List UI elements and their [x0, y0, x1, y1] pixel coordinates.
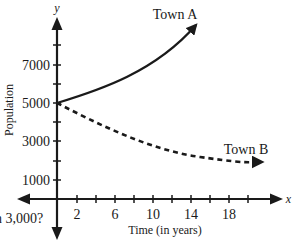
y-tick-label: 5000: [22, 96, 50, 111]
town-a-label: Town A: [153, 7, 198, 22]
y-axis-arrow-down-icon: [52, 227, 63, 240]
x-tick-label: 2: [74, 207, 81, 222]
y-tick-label: 3000: [22, 134, 50, 149]
cutoff-question-text: n 3,000?: [0, 211, 43, 226]
town-b-label: Town B: [224, 142, 269, 157]
y-axis: 1000 3000 5000 7000 y Population: [2, 1, 63, 240]
x-axis-arrow-right-icon: [270, 194, 283, 205]
x-tick-label: 10: [146, 207, 160, 222]
y-axis-arrow-up-icon: [52, 17, 63, 30]
x-axis-label: Time (in years): [128, 223, 202, 237]
town-a-curve: [57, 25, 196, 103]
x-tick-label: 18: [222, 207, 236, 222]
y-tick-label: 7000: [22, 58, 50, 73]
x-axis-variable: x: [285, 192, 292, 206]
y-tick-label: 1000: [22, 173, 50, 188]
x-axis-arrow-left-icon: [17, 194, 30, 205]
y-axis-variable: y: [53, 1, 60, 15]
x-tick-label: 6: [112, 207, 119, 222]
population-chart: 1000 3000 5000 7000 y Population 2 6 10 …: [0, 0, 295, 243]
x-tick-label: 14: [184, 207, 198, 222]
y-axis-label: Population: [2, 84, 16, 136]
